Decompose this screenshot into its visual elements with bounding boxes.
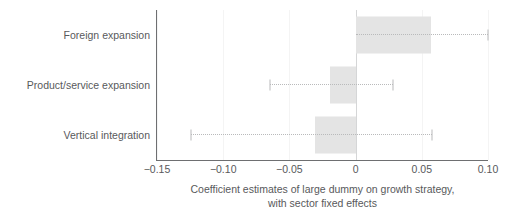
error-bar-line: [191, 134, 432, 136]
x-axis-title-line-2: with sector fixed effects: [157, 196, 488, 210]
x-axis-tick-label: 0: [353, 163, 359, 175]
error-bar-cap: [392, 80, 393, 91]
gridline: [157, 10, 158, 160]
x-axis-tick-label: −0.15: [144, 163, 171, 175]
y-axis-tick-label-product-service-expansion: Product/service expansion: [27, 79, 150, 91]
x-axis-title-line-1: Coefficient estimates of large dummy on …: [157, 182, 488, 196]
x-axis-tick-label: −0.05: [276, 163, 303, 175]
error-bar-cap: [488, 30, 489, 41]
x-axis-tick-label: 0.05: [412, 163, 432, 175]
x-axis-spine: [156, 160, 488, 161]
y-axis-tick-label-vertical-integration: Vertical integration: [64, 129, 150, 141]
x-axis-title: Coefficient estimates of large dummy on …: [157, 182, 488, 210]
error-bar-cap: [191, 130, 192, 141]
y-axis-tick-label-foreign-expansion: Foreign expansion: [64, 29, 150, 41]
x-axis-tick-label: −0.10: [210, 163, 237, 175]
gridline: [223, 10, 224, 160]
y-axis-tick-labels: Foreign expansion Product/service expans…: [0, 0, 150, 219]
error-bar-line: [270, 84, 393, 86]
plot-area: [157, 10, 488, 160]
x-axis-tick-label: 0.10: [478, 163, 498, 175]
error-bar-cap: [432, 130, 433, 141]
error-bar-line: [356, 34, 488, 36]
error-bar-cap: [269, 80, 270, 91]
chart-figure: Foreign expansion Product/service expans…: [0, 0, 512, 219]
